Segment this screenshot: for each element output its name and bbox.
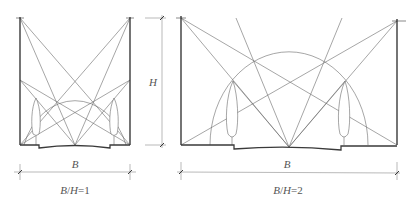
tree-icon xyxy=(110,98,118,145)
ratio-label-bh1: B/H=1 xyxy=(60,184,89,196)
street-proportion-diagram: B B/H=1 H xyxy=(0,0,415,206)
street-ground-bh1 xyxy=(20,145,130,148)
tree-icon xyxy=(226,81,237,145)
diagram-bh1: B B/H=1 xyxy=(14,17,136,196)
tree-icon xyxy=(338,81,349,145)
street-ground-bh2 xyxy=(181,145,397,150)
height-label: H xyxy=(148,76,158,88)
width-label: B xyxy=(72,158,79,170)
tree-icon xyxy=(32,98,40,145)
ratio-label-bh2: B/H=2 xyxy=(273,184,302,196)
width-label: B xyxy=(284,158,291,170)
sight-lines-bh2 xyxy=(181,18,397,147)
diagram-bh2: B B/H=2 xyxy=(176,16,406,196)
